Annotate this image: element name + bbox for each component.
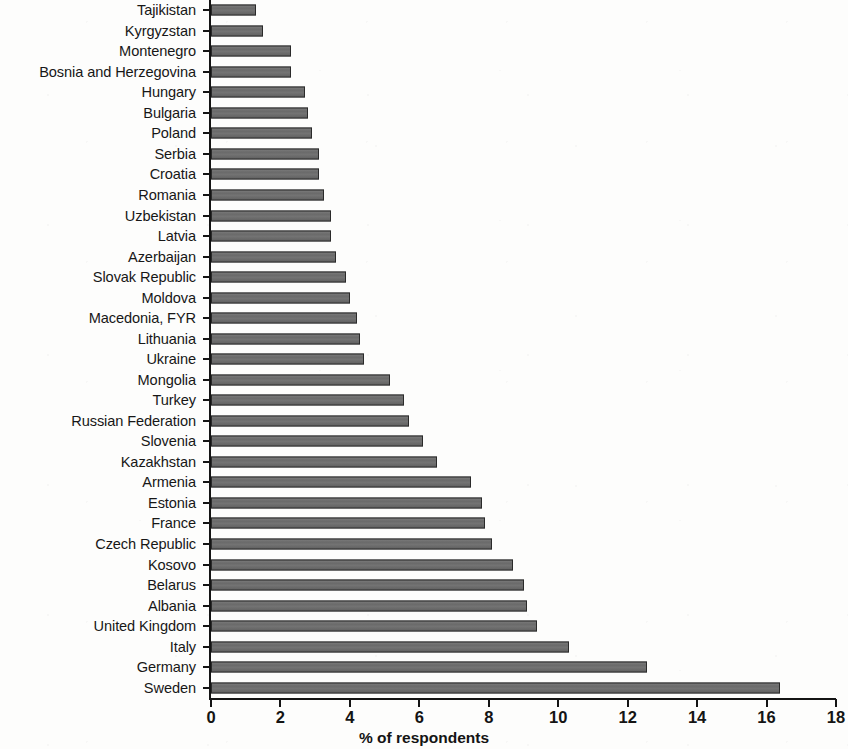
x-axis-tick bbox=[696, 699, 698, 707]
bar-row: Kosovo bbox=[0, 554, 848, 575]
category-label: Azerbaijan bbox=[128, 249, 196, 264]
bar-row: Hungary bbox=[0, 82, 848, 103]
bar-row: Sweden bbox=[0, 677, 848, 698]
bar bbox=[211, 87, 305, 98]
bar bbox=[211, 621, 537, 632]
category-label: Kazakhstan bbox=[121, 455, 196, 470]
bar-row: Serbia bbox=[0, 144, 848, 165]
bar bbox=[211, 210, 331, 221]
bar-row: Bosnia and Herzegovina bbox=[0, 62, 848, 83]
bar-row: Slovenia bbox=[0, 431, 848, 452]
category-label: Turkey bbox=[153, 393, 196, 408]
bar-row: Bulgaria bbox=[0, 103, 848, 124]
category-label: Montenegro bbox=[119, 44, 196, 59]
bar bbox=[211, 107, 308, 118]
x-axis-tick-label: 0 bbox=[206, 709, 215, 726]
category-label: Croatia bbox=[150, 167, 196, 182]
bar-row: Lithuania bbox=[0, 328, 848, 349]
category-label: Italy bbox=[170, 639, 196, 654]
bar bbox=[211, 436, 423, 447]
bar bbox=[211, 251, 336, 262]
category-label: Uzbekistan bbox=[125, 208, 196, 223]
bar bbox=[211, 559, 513, 570]
x-axis-tick bbox=[418, 699, 420, 707]
x-axis-tick bbox=[766, 699, 768, 707]
bar-row: Azerbaijan bbox=[0, 246, 848, 267]
x-axis-tick bbox=[557, 699, 559, 707]
bar-row: Romania bbox=[0, 185, 848, 206]
x-axis-tick-label: 2 bbox=[276, 709, 285, 726]
bar-rows-container: TajikistanKyrgyzstanMontenegroBosnia and… bbox=[0, 0, 848, 698]
category-label: Czech Republic bbox=[95, 537, 196, 552]
bar bbox=[211, 66, 291, 77]
bar-row: Macedonia, FYR bbox=[0, 308, 848, 329]
category-label: Bosnia and Herzegovina bbox=[39, 65, 196, 80]
category-label: Tajikistan bbox=[137, 3, 196, 18]
category-label: Germany bbox=[137, 660, 196, 675]
x-axis-line bbox=[209, 698, 836, 700]
bar bbox=[211, 313, 357, 324]
x-axis-tick-label: 4 bbox=[345, 709, 354, 726]
bar bbox=[211, 395, 404, 406]
bar bbox=[211, 46, 291, 57]
x-axis-tick bbox=[279, 699, 281, 707]
category-label: Slovenia bbox=[141, 434, 196, 449]
bar-row: Russian Federation bbox=[0, 411, 848, 432]
bar-row: Slovak Republic bbox=[0, 267, 848, 288]
bar-row: Armenia bbox=[0, 472, 848, 493]
bar bbox=[211, 148, 319, 159]
bar bbox=[211, 292, 350, 303]
bar-row: France bbox=[0, 513, 848, 534]
x-axis-title: % of respondents bbox=[0, 730, 848, 746]
bar bbox=[211, 415, 409, 426]
category-label: Poland bbox=[151, 126, 196, 141]
bar-chart: TajikistanKyrgyzstanMontenegroBosnia and… bbox=[0, 0, 848, 749]
bar bbox=[211, 497, 482, 508]
x-axis-tick-label: 12 bbox=[618, 709, 636, 726]
category-label: Mongolia bbox=[138, 372, 196, 387]
bar bbox=[211, 190, 324, 201]
bar-row: Estonia bbox=[0, 493, 848, 514]
bar-row: Montenegro bbox=[0, 41, 848, 62]
bar bbox=[211, 128, 312, 139]
x-axis-tick-label: 16 bbox=[757, 709, 775, 726]
bar-row: Croatia bbox=[0, 164, 848, 185]
x-axis-tick bbox=[488, 699, 490, 707]
bar-row: United Kingdom bbox=[0, 616, 848, 637]
bar bbox=[211, 662, 647, 673]
bar-row: Tajikistan bbox=[0, 0, 848, 21]
bar-row: Albania bbox=[0, 595, 848, 616]
bar bbox=[211, 374, 390, 385]
bar bbox=[211, 333, 360, 344]
bar bbox=[211, 539, 492, 550]
category-label: Sweden bbox=[144, 680, 196, 695]
category-label: Latvia bbox=[158, 229, 196, 244]
bar bbox=[211, 354, 364, 365]
category-label: Bulgaria bbox=[143, 106, 196, 121]
category-label: Moldova bbox=[142, 290, 196, 305]
bar bbox=[211, 518, 485, 529]
bar-row: Ukraine bbox=[0, 349, 848, 370]
category-label: Slovak Republic bbox=[93, 270, 196, 285]
x-axis-tick bbox=[349, 699, 351, 707]
bar-row: Poland bbox=[0, 123, 848, 144]
category-label: Russian Federation bbox=[71, 414, 196, 429]
x-axis-tick-label: 14 bbox=[688, 709, 706, 726]
bar-row: Belarus bbox=[0, 575, 848, 596]
bar bbox=[211, 25, 263, 36]
category-label: Armenia bbox=[142, 475, 196, 490]
category-label: Lithuania bbox=[138, 331, 196, 346]
bar bbox=[211, 641, 569, 652]
bar-row: Mongolia bbox=[0, 370, 848, 391]
x-axis-tick-label: 8 bbox=[484, 709, 493, 726]
bar-row: Uzbekistan bbox=[0, 205, 848, 226]
category-label: Kosovo bbox=[148, 557, 196, 572]
bar-row: Kyrgyzstan bbox=[0, 21, 848, 42]
x-axis-tick bbox=[210, 699, 212, 707]
bar-row: Latvia bbox=[0, 226, 848, 247]
category-label: Belarus bbox=[147, 578, 196, 593]
bar bbox=[211, 272, 346, 283]
x-axis-tick-label: 10 bbox=[549, 709, 567, 726]
bar-row: Italy bbox=[0, 636, 848, 657]
bar bbox=[211, 682, 780, 693]
